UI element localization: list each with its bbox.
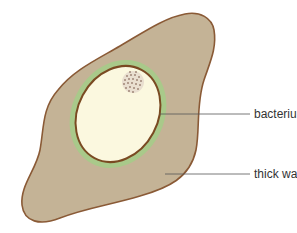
spore-diagram: bacterium thick wall — [0, 0, 297, 233]
spore-illustration — [0, 0, 297, 233]
nucleoid — [122, 71, 144, 93]
bacterium-label: bacterium — [254, 107, 297, 121]
thick-wall-label: thick wall — [254, 167, 297, 181]
